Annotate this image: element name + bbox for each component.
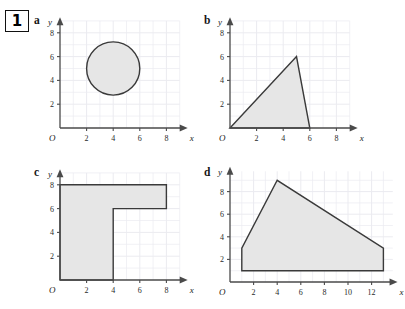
y-tick-label: 4 [50, 228, 54, 237]
shape-circle [87, 42, 140, 95]
x-tick-label: 8 [164, 286, 168, 295]
y-tick-label: 2 [220, 255, 224, 264]
question-number-box: 1 [5, 10, 29, 32]
panel-d-plot: 246810122468xyO [202, 162, 405, 309]
y-tick-label: 2 [220, 100, 224, 109]
y-tick-label: 4 [220, 233, 224, 242]
x-tick-label: 4 [111, 134, 115, 143]
x-tick-label: 2 [252, 288, 256, 297]
x-tick-label: 8 [322, 288, 326, 297]
worksheet-page: 1 a 24682468xyO b 24682468xyO c 24682468… [0, 0, 405, 309]
y-tick-label: 6 [50, 53, 54, 62]
x-tick-label: 2 [85, 134, 89, 143]
y-tick-label: 4 [50, 76, 54, 85]
panel-a: a 24682468xyO [32, 10, 202, 155]
x-tick-label: 12 [368, 288, 376, 297]
x-tick-label: 6 [299, 288, 303, 297]
y-tick-label: 8 [220, 188, 224, 197]
y-tick-label: 6 [50, 205, 54, 214]
panel-b-plot: 24682468xyO [202, 10, 377, 155]
y-tick-label: 8 [50, 29, 54, 38]
y-tick-label: 6 [220, 210, 224, 219]
x-tick-label: 4 [111, 286, 115, 295]
y-tick-label: 2 [50, 100, 54, 109]
x-tick-label: 4 [281, 134, 285, 143]
y-axis-label: y [217, 17, 222, 27]
y-tick-label: 8 [50, 181, 54, 190]
panel-a-plot: 24682468xyO [32, 10, 202, 155]
y-tick-label: 2 [50, 252, 54, 261]
x-tick-label: 6 [138, 134, 142, 143]
x-tick-label: 6 [308, 134, 312, 143]
y-axis-label: y [47, 169, 52, 179]
question-number: 1 [12, 14, 22, 29]
x-tick-label: 2 [85, 286, 89, 295]
x-tick-label: 4 [275, 288, 279, 297]
panel-b: b 24682468xyO [202, 10, 377, 155]
origin-label: O [219, 133, 226, 143]
x-tick-label: 2 [255, 134, 259, 143]
x-axis-label: x [359, 133, 364, 143]
origin-label: O [219, 287, 226, 297]
x-tick-label: 8 [164, 134, 168, 143]
y-axis-label: y [217, 167, 222, 177]
x-tick-label: 8 [334, 134, 338, 143]
panel-d: d 246810122468xyO [202, 162, 405, 309]
y-tick-label: 6 [220, 53, 224, 62]
x-axis-label: x [189, 133, 194, 143]
panel-c: c 24682468xyO [32, 162, 202, 309]
x-tick-label: 10 [344, 288, 352, 297]
panel-c-plot: 24682468xyO [32, 162, 202, 309]
origin-label: O [49, 285, 56, 295]
y-tick-label: 8 [220, 29, 224, 38]
x-axis-label: x [399, 287, 404, 297]
y-axis-label: y [47, 17, 52, 27]
x-tick-label: 6 [138, 286, 142, 295]
origin-label: O [49, 133, 56, 143]
y-tick-label: 4 [220, 76, 224, 85]
x-axis-label: x [189, 285, 194, 295]
